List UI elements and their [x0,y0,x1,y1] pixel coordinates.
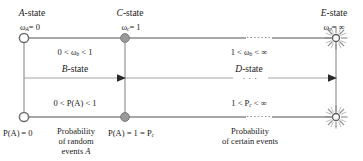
e-state-omega-label: ωe= ∞ [324,23,345,32]
c-state-prob-subscript: c [152,132,154,138]
b-state-title-suffix: -state [68,64,89,74]
b-state-prob-text: 0 < P(A) < 1 [53,98,96,108]
a-state-title-suffix: -state [25,8,46,18]
d-state-prob-prefix: 1 < P [231,98,249,108]
right-caption-line2: of certain events [222,137,278,147]
node-a-state-top-open-circle [19,33,28,42]
d-state-range-suffix: < ∞ [252,47,267,57]
a-state-probability-value: P(A) = 0 [3,129,32,138]
b-state-title: B-state [62,65,88,75]
c-state-probability-value: P(A) = 1 = Pc [108,129,154,138]
c-state-title-suffix: -state [123,8,144,18]
probability-state-diagram: A-state ωA= 0 C-state ωc= 1 E-state ωe= … [0,0,363,161]
b-state-range-suffix: < 1 [79,47,92,57]
a-state-omega-value: = 0 [29,22,40,32]
a-state-title: A-state [19,9,45,19]
b-state-probability-range: 0 < P(A) < 1 [53,99,96,108]
c-state-omega-label: ωc= 1 [121,23,140,32]
node-e-state-bottom-starburst-icon [325,106,348,129]
left-caption-line3-italic: A [85,146,90,156]
node-c-state-top-solid-circle [121,34,130,43]
right-caption-certain-events: Probability of certain events [222,127,278,147]
d-state-probability-range: 1 < Pc < ∞ [231,99,266,108]
d-state-title-italic: D [235,64,242,74]
b-state-range-prefix: 0 < [58,47,71,57]
middle-row-ellipsis: · · · [242,74,257,83]
d-state-omega-range: 1 < ωb < ∞ [231,48,268,57]
left-caption-line3: events A [57,147,95,157]
c-state-omega-value: = 1 [129,22,140,32]
d-state-prob-suffix: < ∞ [252,98,267,108]
left-caption-line3-text: events [61,146,85,156]
e-state-omega-value: = ∞ [331,22,344,32]
c-state-prob-text: P(A) = 1 = P [108,128,152,138]
node-a-state-bottom-open-circle [19,112,28,121]
diagram-canvas [0,0,363,161]
d-state-range-prefix: 1 < [231,47,244,57]
node-c-state-bottom-solid-circle [121,113,130,122]
e-state-title: E-state [321,9,347,19]
e-state-title-suffix: -state [327,8,348,18]
b-state-omega-range: 0 < ωb < 1 [58,48,93,57]
c-state-title: C-state [117,9,144,19]
left-caption-random-events: Probability of random events A [57,127,95,156]
a-state-omega-label: ωA= 0 [20,23,40,32]
